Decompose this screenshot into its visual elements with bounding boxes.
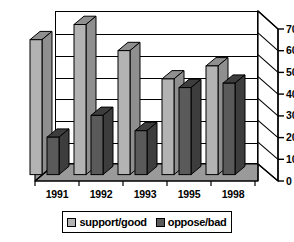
y-axis-tick-label: 30 [286, 110, 294, 120]
x-axis-tick-label: 1991 [35, 188, 79, 200]
legend-swatch-icon [156, 218, 165, 227]
bar-1992-oppose [91, 107, 113, 175]
bar-1998-oppose [223, 75, 245, 175]
chart-legend: support/good oppose/bad [62, 211, 232, 233]
legend-item-oppose: oppose/bad [156, 216, 227, 228]
bar-series-group [0, 0, 294, 200]
plot-area: 70 60 50 40 30 20 10 0 1991 1992 1993 19… [0, 0, 294, 200]
y-axis-tick-label: 20 [286, 132, 294, 142]
y-axis-tick-label: 0 [286, 176, 292, 186]
x-axis-tick-label: 1993 [123, 188, 167, 200]
x-axis-tick-label: 1992 [79, 188, 123, 200]
y-axis-tick-label: 10 [286, 154, 294, 164]
bar-chart: 70 60 50 40 30 20 10 0 1991 1992 1993 19… [0, 0, 294, 242]
legend-item-support: support/good [67, 216, 146, 228]
x-axis-tick-label: 1998 [211, 188, 255, 200]
bar-1993-oppose [135, 122, 157, 174]
legend-label: oppose/bad [168, 216, 227, 228]
legend-label: support/good [79, 216, 146, 228]
y-axis-tick-label: 50 [286, 67, 294, 77]
y-axis-tick-label: 70 [286, 24, 294, 34]
bar-1991-oppose [47, 129, 69, 175]
bar-1995-oppose [179, 79, 201, 174]
y-axis-tick-label: 40 [286, 89, 294, 99]
y-axis-tick-label: 60 [286, 45, 294, 55]
x-axis-tick-label: 1995 [167, 188, 211, 200]
legend-swatch-icon [67, 218, 76, 227]
